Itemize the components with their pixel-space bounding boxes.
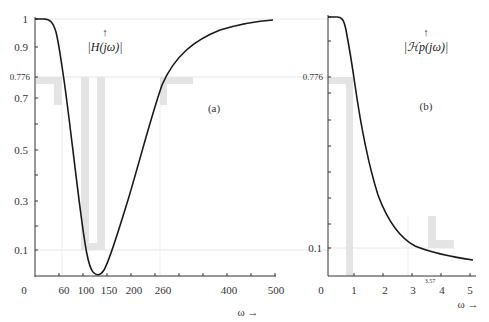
spec-regions-b [328, 77, 454, 276]
x-tick-label-4-b: 4 [439, 284, 445, 296]
x-tick-label-60: 60 [59, 284, 71, 296]
x-axis-label-b: ω → [458, 298, 479, 310]
function-label-a: |H(jω)| [87, 40, 122, 54]
x-tick-label-100: 100 [78, 284, 95, 296]
panel-a: 1 0.9 0.776 0.7 0.5 0.3 0.1 0 60 100 150… [10, 13, 330, 318]
x-tick-label-5-b: 5 [467, 284, 473, 296]
response-curve-a [35, 19, 273, 275]
x-tick-label-0-b: 0 [318, 284, 324, 296]
x-annotation-357: 3.57 [425, 278, 436, 284]
panel-label-a: (a) [208, 102, 221, 115]
x-tick-label-150: 150 [101, 284, 118, 296]
figure: 1 0.9 0.776 0.7 0.5 0.3 0.1 0 60 100 150… [0, 0, 489, 322]
up-arrow-icon-b: ↑ [423, 26, 429, 38]
x-tick-label-260: 260 [155, 284, 172, 296]
x-tick-label-2-b: 2 [382, 284, 388, 296]
y-tick-label-01-b: 0.1 [308, 242, 322, 254]
y-tick-label-07: 0.7 [14, 92, 28, 104]
y-tick-label-03: 0.3 [14, 195, 28, 207]
x-tick-label-200: 200 [126, 284, 143, 296]
x-tick-label-3-b: 3 [410, 284, 416, 296]
panel-label-b: (b) [420, 100, 433, 113]
panel-b: 0.776 0.1 0 1 2 3 4 5 3.57 ↑ |ℋp(jω)| (b… [303, 15, 479, 310]
x-tick-label-1-b: 1 [351, 284, 357, 296]
y-tick-label-0776-b: 0.776 [303, 72, 324, 82]
y-tick-label-05: 0.5 [14, 144, 28, 156]
y-tick-label-0776: 0.776 [10, 72, 31, 82]
spec-regions-a [36, 77, 193, 250]
up-arrow-icon: ↑ [102, 26, 108, 38]
y-tick-label-01: 0.1 [14, 244, 28, 256]
x-tick-label-400: 400 [221, 284, 238, 296]
x-tick-label-500: 500 [268, 284, 285, 296]
function-label-b: |ℋp(jω)| [404, 40, 448, 54]
x-axis-label-a: ω → [238, 306, 259, 318]
y-tick-label-09: 0.9 [14, 41, 28, 53]
y-tick-label-1: 1 [23, 13, 29, 25]
x-tick-label-0: 0 [21, 284, 27, 296]
